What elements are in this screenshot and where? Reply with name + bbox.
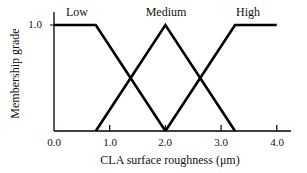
- label-medium: Medium: [146, 5, 187, 20]
- series-medium: [96, 25, 235, 131]
- x-tick-label-3: 3.0: [214, 136, 228, 148]
- plot-area: [0, 0, 307, 173]
- x-axis-label: CLA surface roughness (μm): [100, 153, 239, 168]
- x-tick-label-0: 0.0: [47, 136, 61, 148]
- y-tick-label-1: 1.0: [28, 18, 42, 30]
- series-high: [165, 25, 276, 131]
- y-axis-label: Membership grade: [8, 28, 23, 118]
- x-tick-label-2: 2.0: [158, 136, 172, 148]
- label-low: Low: [66, 5, 88, 20]
- label-high: High: [236, 5, 260, 20]
- x-tick-label-1: 1.0: [103, 136, 117, 148]
- membership-function-chart: Low Medium High 1.0 0.0 1.0 2.0 3.0 4.0 …: [0, 0, 307, 173]
- x-tick-label-4: 4.0: [270, 136, 284, 148]
- series-low: [54, 25, 165, 131]
